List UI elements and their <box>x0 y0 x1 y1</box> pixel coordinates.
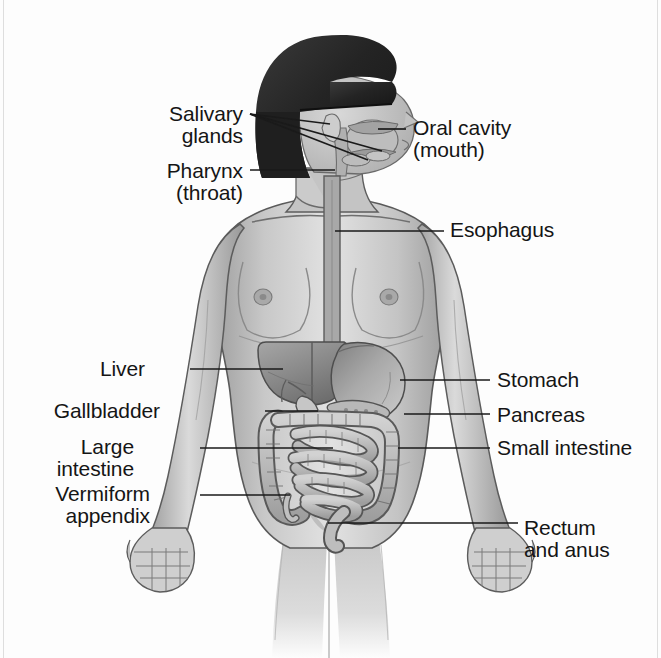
label-line: Esophagus <box>450 219 554 241</box>
label-line: glands <box>169 125 243 147</box>
label-salivary-glands: Salivaryglands <box>169 103 243 148</box>
label-line: Oral cavity <box>413 117 511 139</box>
left-hand <box>127 528 194 592</box>
label-line: Pancreas <box>497 404 585 426</box>
label-rectum-and-anus: Rectumand anus <box>524 517 610 562</box>
label-line: intestine <box>57 458 134 480</box>
label-line: Rectum <box>524 517 610 539</box>
label-line: (mouth) <box>413 139 511 161</box>
label-esophagus: Esophagus <box>450 219 554 241</box>
label-line: Liver <box>100 358 145 380</box>
anatomical-diagram-figure: SalivaryglandsPharynx(throat)Oral cavity… <box>0 0 661 658</box>
label-small-intestine: Small intestine <box>497 437 632 459</box>
organ-esophagus <box>324 176 340 352</box>
label-line: appendix <box>55 505 150 527</box>
label-gallbladder: Gallbladder <box>54 400 160 422</box>
label-line: (throat) <box>167 182 243 204</box>
label-line: Large <box>57 436 134 458</box>
label-line: and anus <box>524 539 610 561</box>
legs <box>272 534 390 658</box>
label-line: Pharynx <box>167 160 243 182</box>
label-oral-cavity: Oral cavity(mouth) <box>413 117 511 162</box>
label-line: Salivary <box>169 103 243 125</box>
label-large-intestine: Largeintestine <box>57 436 134 481</box>
label-vermiform-appendix: Vermiformappendix <box>55 483 150 528</box>
label-line: Vermiform <box>55 483 150 505</box>
label-line: Small intestine <box>497 437 632 459</box>
label-pharynx: Pharynx(throat) <box>167 160 243 205</box>
label-liver: Liver <box>100 358 145 380</box>
label-stomach: Stomach <box>497 369 579 391</box>
label-line: Stomach <box>497 369 579 391</box>
label-line: Gallbladder <box>54 400 160 422</box>
label-pancreas: Pancreas <box>497 404 585 426</box>
